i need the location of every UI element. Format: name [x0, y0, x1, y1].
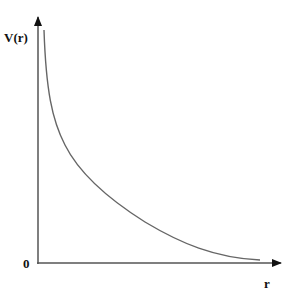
- potential-diagram: [0, 0, 291, 295]
- origin-label: 0: [23, 256, 30, 272]
- potential-curve: [44, 30, 260, 260]
- x-axis-label: r: [264, 276, 270, 292]
- y-axis-label: V(r): [4, 30, 28, 46]
